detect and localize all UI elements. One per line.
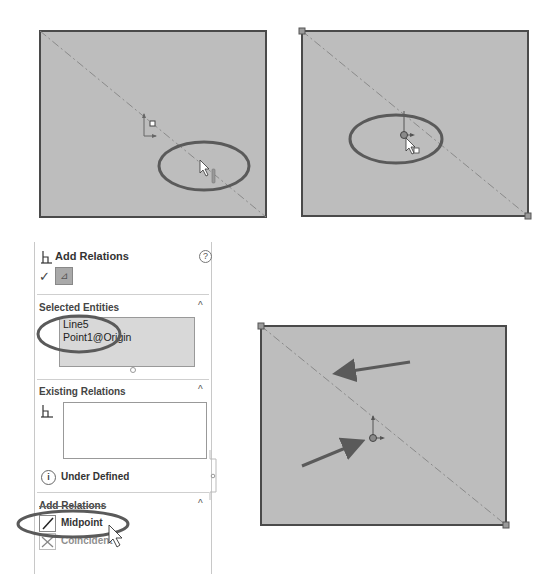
viewport-step-1[interactable] xyxy=(40,31,266,217)
arrow-cursor-icon xyxy=(109,525,122,547)
list-item[interactable]: Point1@Origin xyxy=(60,331,194,344)
divider xyxy=(37,492,209,493)
collapse-caret-icon[interactable]: ^ xyxy=(198,384,203,395)
panel-collapse-notch[interactable] xyxy=(208,450,222,500)
relations-icon xyxy=(39,250,53,264)
status-text: Under Defined xyxy=(61,471,129,482)
relations-icon xyxy=(40,404,54,418)
divider xyxy=(37,294,209,295)
info-icon: i xyxy=(41,470,56,485)
help-icon[interactable]: ? xyxy=(199,250,212,263)
viewport-step-3[interactable] xyxy=(258,323,509,528)
collapse-caret-icon[interactable]: ^ xyxy=(198,300,203,311)
existing-relations-header[interactable]: Existing Relations xyxy=(39,386,126,397)
list-item[interactable]: Line5 xyxy=(60,318,194,331)
selected-entities-header[interactable]: Selected Entities xyxy=(39,302,119,313)
selected-entities-list[interactable]: Line5 Point1@Origin xyxy=(59,317,195,367)
panel-title: Add Relations xyxy=(55,250,129,262)
resize-handle[interactable] xyxy=(130,367,136,373)
viewport-step-2[interactable] xyxy=(299,28,531,219)
pin-button[interactable]: ⊿ xyxy=(55,267,73,285)
callout-ellipse xyxy=(0,500,200,560)
existing-relations-list[interactable] xyxy=(63,402,207,459)
divider xyxy=(37,379,209,380)
ok-checkmark-icon[interactable]: ✓ xyxy=(39,269,50,284)
